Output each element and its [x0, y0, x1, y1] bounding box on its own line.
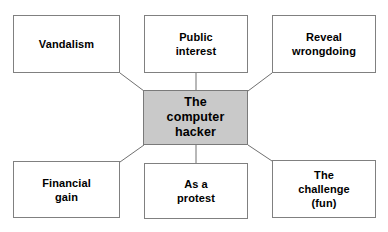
node-vandalism-label: Vandalism: [39, 37, 94, 51]
node-as-a-protest[interactable]: As a protest: [144, 163, 248, 219]
mind-map-diagram: Vandalism Public interest Reveal wrongdo…: [0, 0, 388, 232]
node-the-challenge-label: The challenge (fun): [298, 168, 350, 210]
node-public-interest-label: Public interest: [176, 30, 217, 58]
connector-reveal-wrongdoing-center: [248, 73, 272, 91]
node-vandalism[interactable]: Vandalism: [13, 15, 120, 73]
connector-the-challenge-center: [248, 145, 272, 161]
node-reveal-wrongdoing[interactable]: Reveal wrongdoing: [272, 15, 376, 73]
connector-vandalism-center: [120, 73, 144, 91]
node-central-topic[interactable]: The computer hacker: [143, 90, 248, 145]
node-the-challenge[interactable]: The challenge (fun): [272, 160, 376, 218]
connector-financial-gain-center: [120, 145, 144, 162]
node-as-a-protest-label: As a protest: [177, 177, 215, 205]
node-financial-gain[interactable]: Financial gain: [13, 161, 120, 218]
node-financial-gain-label: Financial gain: [42, 176, 91, 204]
node-central-topic-label: The computer hacker: [167, 95, 225, 140]
node-public-interest[interactable]: Public interest: [144, 15, 248, 73]
node-reveal-wrongdoing-label: Reveal wrongdoing: [292, 30, 356, 58]
